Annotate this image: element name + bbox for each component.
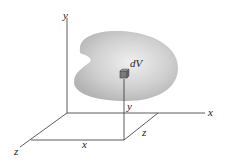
y-dimension-label: y xyxy=(127,101,132,112)
x-axis-label: x xyxy=(208,107,213,118)
z-dimension-label: z xyxy=(142,127,146,138)
diagram-graphics xyxy=(0,0,229,164)
z-projection-line xyxy=(124,113,158,140)
diagram-canvas: y x z dV y z x xyxy=(0,0,229,164)
z-axis xyxy=(20,113,67,147)
volume-body xyxy=(74,31,178,101)
y-axis-label: y xyxy=(63,10,68,21)
volume-element-cube xyxy=(120,71,127,78)
x-dimension-label: x xyxy=(82,139,87,150)
z-axis-label: z xyxy=(14,146,18,157)
dv-label: dV xyxy=(130,58,142,69)
